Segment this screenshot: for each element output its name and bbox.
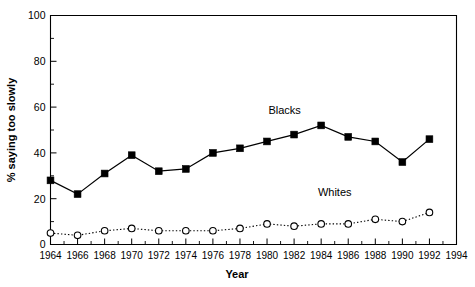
data-point-blacks-1966: [74, 191, 81, 198]
data-point-whites-1978: [237, 225, 244, 232]
x-tick-label-1992: 1992: [418, 250, 441, 261]
series-blacks: [47, 122, 433, 198]
plot-frame: [51, 16, 457, 245]
x-tick-label-1966: 1966: [66, 250, 89, 261]
x-tick-label-1970: 1970: [121, 250, 144, 261]
x-tick-label-1988: 1988: [364, 250, 387, 261]
y-tick-label-60: 60: [34, 101, 46, 113]
x-tick-label-1982: 1982: [283, 250, 306, 261]
data-point-whites-1990: [399, 218, 406, 225]
data-point-whites-1974: [183, 227, 190, 234]
x-tick-label-1980: 1980: [256, 250, 279, 261]
data-series-layer: [47, 122, 433, 239]
x-axis-title: Year: [225, 268, 249, 280]
data-point-whites-1970: [128, 225, 135, 232]
x-tick-label-1978: 1978: [229, 250, 252, 261]
line-chart: 020406080100 196419661968197019721974197…: [0, 0, 475, 287]
y-axis-title: % saying too slowly: [5, 77, 17, 182]
series-annotation-blacks: Blacks: [268, 104, 301, 116]
data-point-blacks-1964: [47, 177, 54, 184]
series-whites: [47, 209, 433, 239]
data-point-blacks-1970: [128, 152, 135, 159]
series-annotations: BlacksWhites: [268, 104, 352, 198]
data-point-whites-1982: [291, 223, 298, 230]
x-tick-label-1974: 1974: [175, 250, 198, 261]
y-tick-label-40: 40: [34, 147, 46, 159]
data-point-blacks-1982: [291, 131, 298, 138]
plot-border: [51, 16, 457, 245]
data-point-blacks-1980: [264, 138, 271, 145]
chart-figure: 020406080100 196419661968197019721974197…: [0, 0, 475, 287]
data-point-whites-1968: [101, 227, 108, 234]
data-point-whites-1966: [74, 232, 81, 239]
x-tick-label-1990: 1990: [391, 250, 414, 261]
data-point-whites-1984: [318, 221, 325, 228]
x-tick-label-1986: 1986: [337, 250, 360, 261]
data-point-whites-1980: [264, 221, 271, 228]
data-point-blacks-1974: [182, 166, 189, 173]
data-point-blacks-1968: [101, 170, 108, 177]
data-point-blacks-1992: [426, 136, 433, 143]
x-axis-ticks: [51, 239, 457, 245]
x-tick-label-1964: 1964: [39, 250, 62, 261]
x-tick-label-1994: 1994: [445, 250, 468, 261]
data-point-whites-1964: [47, 230, 54, 237]
x-axis-tick-labels: 1964196619681970197219741976197819801982…: [39, 250, 468, 261]
y-axis-ticks: [51, 16, 57, 245]
data-point-whites-1986: [345, 221, 352, 228]
y-tick-label-0: 0: [40, 238, 46, 250]
x-tick-label-1984: 1984: [310, 250, 333, 261]
y-axis-tick-labels: 020406080100: [28, 9, 46, 250]
data-point-blacks-1978: [237, 145, 244, 152]
series-annotation-whites: Whites: [318, 186, 352, 198]
data-point-whites-1988: [372, 216, 379, 223]
x-tick-label-1976: 1976: [202, 250, 225, 261]
y-tick-label-80: 80: [34, 55, 46, 67]
x-tick-label-1968: 1968: [94, 250, 117, 261]
data-point-whites-1972: [155, 227, 162, 234]
x-tick-label-1972: 1972: [148, 250, 171, 261]
data-point-blacks-1990: [399, 159, 406, 166]
data-point-whites-1976: [210, 227, 217, 234]
y-tick-label-20: 20: [34, 193, 46, 205]
data-point-blacks-1984: [318, 122, 325, 129]
data-point-blacks-1976: [210, 150, 217, 157]
data-point-whites-1992: [426, 209, 433, 216]
series-line-blacks: [51, 125, 430, 194]
data-point-blacks-1972: [155, 168, 162, 175]
data-point-blacks-1988: [372, 138, 379, 145]
data-point-blacks-1986: [345, 133, 352, 140]
y-tick-label-100: 100: [28, 9, 46, 21]
